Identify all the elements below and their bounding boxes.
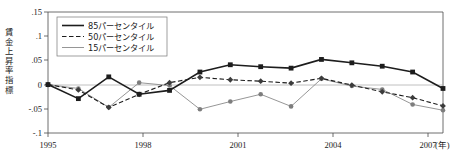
y-tick-label: .05	[31, 55, 42, 65]
data-point	[198, 70, 203, 75]
data-point	[197, 74, 203, 80]
data-point	[46, 82, 51, 87]
data-point	[410, 70, 415, 75]
data-point	[380, 64, 385, 69]
data-point	[289, 104, 294, 109]
x-axis-unit-label: (年)	[435, 140, 450, 150]
wage-growth-percentile-line-chart: .15 .1 .05 0 -.05 -.1 1995 1998 2001 200…	[0, 0, 455, 168]
y-axis-title: 賃金上昇率指標	[2, 28, 15, 95]
data-point	[410, 95, 416, 101]
data-point	[137, 92, 142, 97]
data-point	[258, 92, 263, 97]
data-point	[258, 78, 264, 84]
data-point	[227, 77, 233, 83]
legend-label-15: 15パーセンタイル	[88, 43, 154, 53]
y-tick-label: -.1	[33, 128, 42, 138]
x-tick-label: 1998	[135, 140, 152, 150]
legend: 85パーセンタイル 50パーセンタイル 15パーセンタイル	[57, 17, 167, 56]
series-85-percentile	[46, 57, 446, 101]
x-tick-label: 2004	[325, 140, 343, 150]
data-point	[198, 107, 203, 112]
data-point	[319, 57, 324, 62]
x-tick-label: 1995	[40, 140, 57, 150]
data-point	[258, 64, 263, 69]
data-point	[410, 102, 415, 107]
data-point	[76, 96, 81, 101]
x-axis-tick-labels: 1995 1998 2001 2004 2007 (年)	[40, 140, 450, 150]
chart-figure: 賃金上昇率指標 .15 .1 .05 0 -.05 -.1	[0, 0, 455, 168]
data-point	[106, 74, 111, 79]
legend-label-85: 85パーセンタイル	[88, 21, 154, 31]
y-tick-label: -.05	[29, 104, 42, 114]
x-axis-ticks	[48, 133, 428, 137]
y-tick-label: .1	[36, 31, 42, 41]
data-point	[228, 62, 233, 67]
data-point	[228, 99, 233, 104]
y-tick-label: .15	[31, 7, 42, 17]
x-tick-label: 2007	[420, 140, 437, 150]
data-point	[349, 60, 354, 65]
series-line	[48, 79, 443, 110]
series-15-percentile	[46, 76, 446, 112]
legend-label-50: 50パーセンタイル	[88, 32, 154, 42]
x-tick-label: 2001	[230, 140, 247, 150]
data-point	[441, 86, 446, 91]
data-point	[167, 88, 172, 93]
y-tick-label: 0	[38, 80, 42, 90]
data-point	[137, 80, 142, 85]
data-point	[289, 66, 294, 71]
y-axis-ticks	[44, 12, 48, 133]
data-point	[440, 103, 446, 109]
y-axis-tick-labels: .15 .1 .05 0 -.05 -.1	[29, 7, 42, 138]
